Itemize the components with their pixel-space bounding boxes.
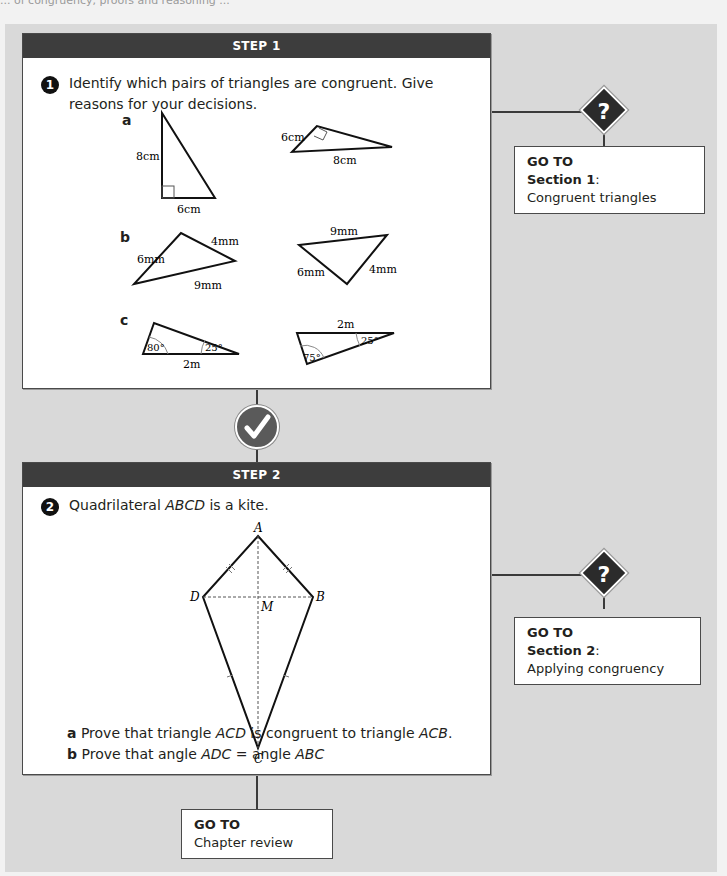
goto-title: GO TO bbox=[527, 154, 573, 169]
svg-text:9mm: 9mm bbox=[330, 225, 358, 238]
question-mark-icon: ? bbox=[587, 558, 621, 592]
goto-section: Section 2 bbox=[527, 643, 595, 658]
svg-text:6mm: 6mm bbox=[297, 266, 325, 279]
connector-step2-final bbox=[256, 774, 258, 810]
part-a-text: a Prove that triangle ACD is congruent t… bbox=[67, 723, 452, 744]
question-mark-icon: ? bbox=[587, 95, 621, 129]
triangles-figure: 8cm 6cm 6cm 8cm 6mm 4mm 9mm 9mm 6mm 4mm … bbox=[23, 34, 490, 388]
part-b-label: b bbox=[67, 746, 77, 762]
triangle-a-left bbox=[162, 113, 215, 198]
goto-title: GO TO bbox=[527, 625, 573, 640]
svg-text:9mm: 9mm bbox=[194, 279, 222, 292]
goto-section2-card[interactable]: GO TO Section 2: Applying congruency bbox=[514, 617, 701, 685]
svg-text:80°: 80° bbox=[147, 342, 165, 353]
check-circle-icon bbox=[235, 405, 279, 449]
goto-title: GO TO bbox=[194, 817, 240, 832]
label-8cm: 8cm bbox=[136, 150, 160, 163]
svg-text:4mm: 4mm bbox=[369, 263, 397, 276]
svg-text:B: B bbox=[315, 590, 325, 604]
connector-step1-right bbox=[490, 111, 583, 113]
svg-text:4mm: 4mm bbox=[211, 235, 239, 248]
svg-text:25°: 25° bbox=[361, 335, 379, 346]
svg-text:A: A bbox=[253, 521, 263, 535]
goto-section1-card[interactable]: GO TO Section 1: Congruent triangles bbox=[514, 146, 705, 214]
svg-text:M: M bbox=[260, 600, 274, 614]
svg-text:25°: 25° bbox=[205, 342, 223, 353]
step2-card: STEP 2 2 Quadrilateral ABCD is a kite. A… bbox=[22, 462, 491, 775]
goto-topic: Congruent triangles bbox=[527, 189, 692, 207]
label-6cm-b: 6cm bbox=[281, 131, 305, 144]
label-6cm: 6cm bbox=[177, 203, 201, 216]
triangle-a-right bbox=[292, 126, 392, 152]
svg-text:2m: 2m bbox=[337, 318, 355, 331]
part-b-text: b Prove that angle ADC = angle ABC bbox=[67, 744, 324, 765]
goto-chapter-review-card[interactable]: GO TO Chapter review bbox=[181, 809, 333, 859]
part-a-label: a bbox=[67, 725, 76, 741]
svg-text:D: D bbox=[189, 590, 200, 604]
top-cutoff-text: ... of congruency, proofs and reasoning … bbox=[0, 0, 727, 6]
label-8cm-b: 8cm bbox=[333, 154, 357, 167]
connector-step2-right bbox=[490, 574, 583, 576]
svg-text:6mm: 6mm bbox=[137, 253, 165, 266]
svg-text:2m: 2m bbox=[183, 358, 201, 371]
goto-section: Section 1 bbox=[527, 172, 595, 187]
goto-topic: Chapter review bbox=[194, 834, 320, 852]
step1-card: STEP 1 1 Identify which pairs of triangl… bbox=[22, 33, 491, 389]
svg-text:75°: 75° bbox=[303, 352, 321, 363]
goto-topic: Applying congruency bbox=[527, 660, 688, 678]
